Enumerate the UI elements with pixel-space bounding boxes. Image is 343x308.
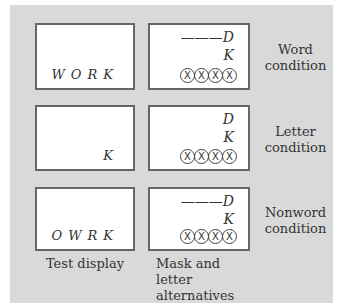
mask-box-word: ———D K X X X X xyxy=(148,23,250,90)
caption-line: alternatives xyxy=(156,288,258,304)
alternative-top: D xyxy=(223,111,234,127)
stimulus-text: K xyxy=(103,148,119,163)
circled-x-icon: X xyxy=(180,68,195,83)
condition-line: Word xyxy=(258,42,333,58)
mask-symbols: X X X X xyxy=(181,229,237,244)
mask-symbols: X X X X xyxy=(181,68,237,83)
alternative-top: ———D xyxy=(181,193,234,209)
circled-x-icon: X xyxy=(208,68,223,83)
stimulus-text: WORK xyxy=(51,67,119,82)
alternative-middle: K xyxy=(224,47,234,63)
alternative-middle: K xyxy=(224,211,234,227)
condition-line: condition xyxy=(258,58,333,74)
condition-label-nonword: Nonword condition xyxy=(258,205,333,237)
circled-x-icon: X xyxy=(180,149,195,164)
circled-x-icon: X xyxy=(194,229,209,244)
condition-label-letter: Letter condition xyxy=(258,124,333,156)
circled-x-icon: X xyxy=(194,149,209,164)
mask-box-letter: D K X X X X xyxy=(148,105,250,171)
condition-line: Letter xyxy=(258,124,333,140)
condition-line: condition xyxy=(258,221,333,237)
circled-x-icon: X xyxy=(208,149,223,164)
mask-symbols: X X X X xyxy=(181,149,237,164)
condition-label-word: Word condition xyxy=(258,42,333,74)
circled-x-icon: X xyxy=(194,68,209,83)
caption-test-display: Test display xyxy=(35,256,135,272)
alternative-top: ———D xyxy=(181,29,234,45)
circled-x-icon: X xyxy=(222,229,237,244)
test-display-word: WORK xyxy=(35,23,135,90)
caption-mask: Mask and letter alternatives xyxy=(148,256,258,304)
alternative-middle: K xyxy=(224,129,234,145)
condition-line: Nonword xyxy=(258,205,333,221)
caption-line: Mask and letter xyxy=(156,256,258,288)
circled-x-icon: X xyxy=(222,149,237,164)
test-display-nonword: OWRK xyxy=(35,187,135,251)
stimulus-text: OWRK xyxy=(51,228,119,243)
condition-line: condition xyxy=(258,140,333,156)
circled-x-icon: X xyxy=(208,229,223,244)
mask-box-nonword: ———D K X X X X xyxy=(148,187,250,251)
circled-x-icon: X xyxy=(222,68,237,83)
circled-x-icon: X xyxy=(180,229,195,244)
test-display-letter: K xyxy=(35,105,135,171)
